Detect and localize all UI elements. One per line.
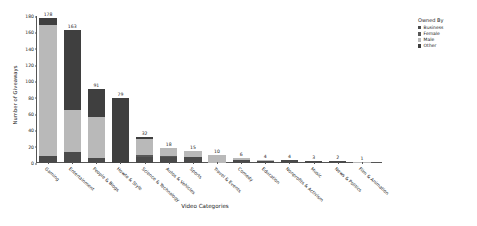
bar-total-label: 1: [360, 156, 363, 161]
y-axis-tick-label: 80: [18, 95, 34, 100]
bar-total-label: 163: [68, 24, 77, 29]
bar-slot[interactable]: 1: [350, 16, 374, 163]
bar-total-label: 178: [44, 12, 53, 17]
x-axis-label: Film & Animation: [358, 166, 390, 195]
bar-slot[interactable]: 3: [302, 16, 326, 163]
stacked-bar[interactable]: 79: [112, 98, 129, 163]
bar-segment-other[interactable]: [112, 98, 129, 163]
bar-segment-male[interactable]: [64, 110, 81, 152]
x-axis-label-slot: Howto & Style: [108, 164, 132, 204]
x-axis-label-slot: Travel & Events: [205, 164, 229, 204]
legend-item[interactable]: Business: [418, 26, 474, 31]
y-axis-tick-label: 100: [18, 79, 34, 84]
x-axis-labels: GamingEntertainmentPeople & BlogsHowto &…: [36, 164, 374, 204]
x-axis-label-slot: Science & Technology: [133, 164, 157, 204]
y-axis-tick-label: 0: [18, 161, 34, 166]
legend-items: BusinessFemaleMaleOther: [418, 26, 474, 49]
y-axis-tick-label: 180: [18, 14, 34, 19]
plot-area: 020406080100120140160180 178163917932181…: [36, 16, 374, 163]
legend-label: Business: [424, 26, 444, 31]
legend: Owned By BusinessFemaleMaleOther: [418, 17, 474, 50]
legend-swatch-icon: [418, 44, 421, 47]
y-axis-tick-label: 20: [18, 144, 34, 149]
x-axis-label-slot: News & Politics: [326, 164, 350, 204]
x-axis-label-slot: Gaming: [36, 164, 60, 204]
x-axis-label: Sports: [189, 166, 203, 179]
legend-item[interactable]: Other: [418, 44, 474, 49]
bar-segment-other[interactable]: [64, 30, 81, 110]
y-axis-tick-label: 140: [18, 46, 34, 51]
legend-swatch-icon: [418, 26, 421, 29]
y-axis-tick-label: 120: [18, 63, 34, 68]
stacked-bar[interactable]: 91: [88, 89, 105, 163]
x-axis-label: Gaming: [44, 166, 60, 181]
x-axis-label-slot: Sports: [181, 164, 205, 204]
bar-slot[interactable]: 178: [36, 16, 60, 163]
bar-segment-male[interactable]: [136, 139, 153, 155]
bar-total-label: 18: [166, 142, 172, 147]
bar-slot[interactable]: 6: [229, 16, 253, 163]
x-axis-tickmark: [120, 162, 121, 164]
bar-slot[interactable]: 15: [181, 16, 205, 163]
x-axis-tickmark: [314, 162, 315, 164]
legend-label: Male: [424, 38, 435, 43]
legend-swatch-icon: [418, 38, 421, 41]
bar-segment-other[interactable]: [39, 18, 56, 25]
x-axis-tickmark: [193, 162, 194, 164]
bar-slot[interactable]: 91: [84, 16, 108, 163]
bar-segment-male[interactable]: [88, 117, 105, 158]
bar-segment-other[interactable]: [88, 89, 105, 118]
x-axis-label-slot: Autos & Vehicles: [157, 164, 181, 204]
bar-total-label: 79: [118, 92, 124, 97]
bar-slot[interactable]: 2: [326, 16, 350, 163]
legend-label: Female: [424, 32, 440, 37]
legend-label: Other: [424, 44, 437, 49]
x-axis-label: Comedy: [237, 166, 254, 182]
x-axis-tickmark: [72, 162, 73, 164]
x-axis-title: Video Categories: [36, 203, 374, 209]
bar-total-label: 91: [93, 83, 99, 88]
x-axis-label-slot: Film & Animation: [350, 164, 374, 204]
bar-total-label: 2: [336, 155, 339, 160]
x-axis-label-slot: Music: [302, 164, 326, 204]
x-axis-tickmark: [48, 162, 49, 164]
stacked-bar[interactable]: 163: [64, 30, 81, 163]
legend-item[interactable]: Male: [418, 38, 474, 43]
legend-swatch-icon: [418, 32, 421, 35]
x-axis-label-slot: Nonprofits & Activism: [277, 164, 301, 204]
x-axis-tickmark: [217, 162, 218, 164]
bar-slot[interactable]: 4: [253, 16, 277, 163]
y-axis-tick-label: 40: [18, 128, 34, 133]
bar-total-label: 6: [240, 152, 243, 157]
bar-slot[interactable]: 18: [157, 16, 181, 163]
bar-total-label: 32: [142, 131, 148, 136]
x-axis-tickmark: [265, 162, 266, 164]
legend-title: Owned By: [418, 17, 474, 23]
x-axis-tickmark: [96, 162, 97, 164]
bar-slot[interactable]: 10: [205, 16, 229, 163]
bar-slot[interactable]: 163: [60, 16, 84, 163]
x-axis-tickmark: [362, 162, 363, 164]
bar-segment-male[interactable]: [39, 25, 56, 156]
x-axis-label-slot: People & Blogs: [84, 164, 108, 204]
bar-slot[interactable]: 79: [108, 16, 132, 163]
bar-slot[interactable]: 4: [277, 16, 301, 163]
stacked-bar[interactable]: 32: [136, 137, 153, 163]
y-axis-tick-label: 60: [18, 112, 34, 117]
x-axis-label: Music: [310, 166, 323, 178]
bar-segment-male[interactable]: [160, 148, 177, 155]
stacked-bar[interactable]: 18: [160, 148, 177, 163]
x-axis-tickmark: [241, 162, 242, 164]
bar-total-label: 15: [190, 145, 196, 150]
x-axis-label-slot: Entertainment: [60, 164, 84, 204]
bar-total-label: 10: [214, 149, 220, 154]
x-axis-tickmark: [145, 162, 146, 164]
x-axis-label-slot: Comedy: [229, 164, 253, 204]
legend-item[interactable]: Female: [418, 32, 474, 37]
bar-total-label: 3: [312, 155, 315, 160]
bar-series-container: 178163917932181510644321: [36, 16, 374, 163]
bar-total-label: 4: [264, 154, 267, 159]
bar-slot[interactable]: 32: [133, 16, 157, 163]
bar-chart: Number of Giveaways 02040608010012014016…: [0, 0, 477, 226]
stacked-bar[interactable]: 178: [39, 18, 56, 163]
